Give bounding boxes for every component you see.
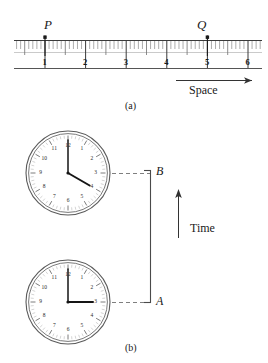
clock-numeral: 11 [52, 146, 57, 152]
event-label-p: P [44, 18, 52, 31]
clock-numeral: 3 [94, 170, 97, 176]
panel-b-caption: (b) [125, 343, 137, 353]
clock-numeral: 9 [39, 299, 42, 305]
space-axis-label: Space [189, 84, 218, 96]
clock-numeral: 12 [65, 272, 71, 278]
clock-numeral: 6 [67, 198, 70, 204]
clock-numeral: 12 [65, 143, 71, 149]
clock-numeral: 5 [80, 323, 83, 329]
clock-center-pin [66, 300, 69, 303]
ruler-tick-group [17, 41, 261, 68]
panel-b-clocks [26, 131, 182, 344]
ruler-tick-number: 6 [246, 58, 250, 67]
clock-numeral: 1 [80, 275, 83, 281]
clock-numeral: 3 [94, 299, 97, 305]
panel-a-ruler [14, 36, 262, 84]
ruler-tick-number: 5 [205, 58, 209, 67]
ruler-tick-number: 1 [43, 58, 47, 67]
clock-numeral: 11 [52, 275, 57, 281]
clock-center-pin [66, 171, 69, 174]
figure-root: P Q 123456 Space (a) 1212345678910111212… [0, 0, 268, 363]
ruler-tick-number: 3 [124, 58, 128, 67]
clock-numeral: 1 [80, 146, 83, 152]
event-label-q: Q [197, 18, 206, 31]
clock-numeral: 10 [41, 157, 47, 163]
time-arrow [175, 189, 182, 238]
panel-a-caption: (a) [125, 101, 136, 111]
clock-numeral: 7 [53, 194, 56, 200]
clock-numeral: 4 [90, 184, 93, 190]
clock-numeral: 2 [90, 286, 93, 292]
ruler-tick-number: 4 [164, 58, 168, 67]
worldline-bracket [144, 170, 151, 303]
clock-numeral: 8 [43, 313, 46, 319]
clock-numeral: 6 [67, 327, 70, 333]
event-label-b: B [156, 165, 163, 177]
clock-numeral: 9 [39, 170, 42, 176]
clock-numeral: 10 [41, 286, 47, 292]
clock-numeral: 5 [80, 194, 83, 200]
clock-numeral: 4 [90, 313, 93, 319]
clock-numeral: 7 [53, 323, 56, 329]
clock-face-group [26, 131, 110, 344]
clock-numeral: 8 [43, 184, 46, 190]
figure-canvas [0, 0, 268, 363]
event-label-a: A [156, 295, 163, 307]
time-axis-label: Time [190, 222, 215, 234]
clock-numeral: 2 [90, 157, 93, 163]
ruler-tick-number: 2 [83, 58, 87, 67]
